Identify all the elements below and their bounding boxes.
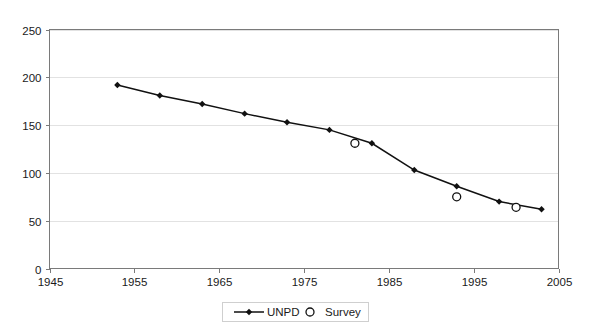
- y-tick-label: 0: [35, 264, 41, 276]
- x-tick-label: 2005: [547, 276, 573, 288]
- data-point-marker: [453, 193, 461, 201]
- y-tick-label: 50: [29, 216, 42, 228]
- y-tick-label: 250: [22, 25, 41, 37]
- y-tick-label: 150: [22, 120, 41, 132]
- legend-label-survey: Survey: [325, 306, 361, 318]
- x-tick-label: 1995: [462, 276, 488, 288]
- data-point-marker: [512, 203, 520, 211]
- x-tick-label: 1945: [38, 276, 64, 288]
- x-tick-label: 1975: [292, 276, 318, 288]
- x-tick-label: 1955: [122, 276, 148, 288]
- legend-circle-icon: [306, 308, 314, 316]
- data-point-marker: [351, 139, 359, 147]
- y-tick-label: 100: [22, 168, 41, 180]
- x-tick-label: 1965: [207, 276, 233, 288]
- chart-container: 050100150200250 194519551965197519851995…: [0, 0, 589, 330]
- chart-legend: UNPDSurvey: [223, 303, 369, 322]
- legend-label-unpd: UNPD: [267, 306, 300, 318]
- x-tick-label: 1985: [377, 276, 403, 288]
- y-tick-label: 200: [22, 72, 41, 84]
- line-chart: 050100150200250 194519551965197519851995…: [0, 0, 589, 330]
